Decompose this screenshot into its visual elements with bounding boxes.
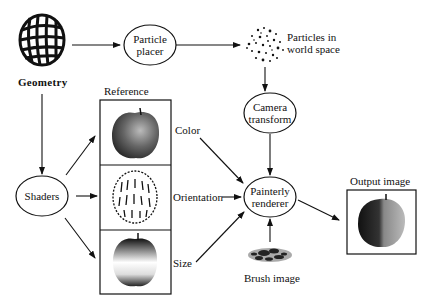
- orientation-channel-label: Orientation: [173, 191, 223, 203]
- painterly-renderer-label: Painterly renderer: [244, 185, 296, 209]
- painterly-renderer-line2: renderer: [244, 197, 296, 209]
- brush-image-label: Brush image: [244, 272, 300, 284]
- edge-shaders-to-size: [65, 218, 95, 258]
- brush-image-icon: [248, 248, 292, 262]
- particle-placer-line1: Particle: [124, 33, 176, 45]
- edges: [42, 45, 339, 262]
- edge-color-to-renderer: [200, 138, 243, 183]
- camera-transform-line1: Camera: [244, 101, 296, 113]
- reference-label: Reference: [104, 85, 149, 97]
- size-channel-label: Size: [173, 257, 192, 269]
- camera-transform-label: Camera transform: [244, 101, 296, 125]
- particles-label-line1: Particles in: [287, 31, 337, 43]
- particles-label-line2: world space: [287, 43, 340, 55]
- geometry-mesh-icon: [20, 15, 64, 65]
- edge-shaders-to-color: [66, 136, 95, 175]
- output-image-panel: [347, 190, 416, 254]
- color-channel-label: Color: [175, 124, 200, 136]
- particles-cloud-icon: [246, 27, 284, 62]
- camera-transform-line2: transform: [244, 113, 296, 125]
- edge-size-to-renderer: [196, 212, 244, 262]
- pipeline-diagram: Particles in world space: [0, 0, 430, 306]
- output-image-label: Output image: [350, 175, 410, 187]
- painterly-renderer-line1: Painterly: [244, 185, 296, 197]
- particle-placer-label: Particle placer: [124, 33, 176, 57]
- edge-renderer-to-output: [298, 200, 339, 220]
- geometry-label: Geometry: [18, 76, 67, 88]
- particle-placer-line2: placer: [124, 45, 176, 57]
- shaders-label: Shaders: [16, 190, 68, 202]
